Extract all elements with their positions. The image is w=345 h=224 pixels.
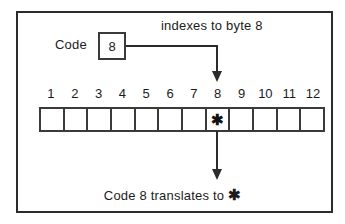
index-caption: indexes to byte 8: [161, 18, 263, 33]
result-caption: Code 8 translates to ✱: [0, 186, 345, 204]
result-glyph: ✱: [228, 186, 241, 203]
byte-index-label: 7: [182, 86, 206, 102]
byte-index-label: 10: [253, 86, 277, 102]
byte-cell: [41, 109, 65, 130]
index-connector-horizontal: [126, 45, 218, 47]
byte-cell: [301, 109, 323, 130]
result-connector-vertical: [216, 131, 218, 171]
byte-cell: [88, 109, 112, 130]
byte-cell: [159, 109, 183, 130]
byte-index-label: 12: [301, 86, 325, 102]
code-label: Code: [55, 37, 87, 52]
byte-cell: [136, 109, 160, 130]
byte-cell: ✱: [207, 109, 231, 130]
byte-index-ruler: 123456789101112: [39, 86, 325, 102]
byte-table: ✱: [39, 107, 325, 132]
byte-cell: [278, 109, 302, 130]
byte-cell: [183, 109, 207, 130]
byte-index-label: 3: [87, 86, 111, 102]
byte-cell: [112, 109, 136, 130]
index-connector-vertical: [216, 45, 218, 73]
byte-index-label: 6: [158, 86, 182, 102]
diagram-canvas: Code 8 indexes to byte 8 123456789101112…: [0, 0, 345, 224]
result-caption-text: Code 8 translates to: [104, 188, 224, 203]
byte-index-label: 4: [110, 86, 134, 102]
code-value-box: 8: [98, 32, 126, 60]
byte-index-label: 11: [277, 86, 301, 102]
byte-index-label: 8: [206, 86, 230, 102]
index-arrowhead-icon: [212, 71, 222, 82]
byte-index-label: 2: [63, 86, 87, 102]
code-value: 8: [100, 34, 124, 58]
byte-cell: [230, 109, 254, 130]
result-arrowhead-icon: [212, 169, 222, 180]
byte-cell: [65, 109, 89, 130]
byte-index-label: 9: [230, 86, 254, 102]
byte-cell-glyph: ✱: [211, 112, 224, 127]
byte-index-label: 1: [39, 86, 63, 102]
byte-cell: [254, 109, 278, 130]
byte-index-label: 5: [134, 86, 158, 102]
